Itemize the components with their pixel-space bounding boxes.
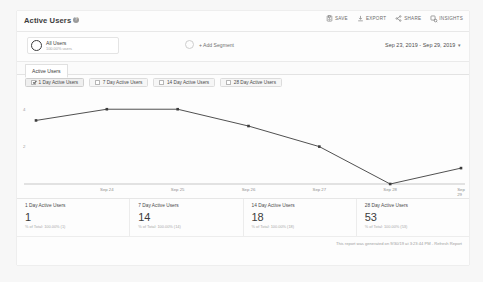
save-label: SAVE [335, 16, 348, 21]
generated-timestamp: This report was generated on 9/30/19 at … [336, 241, 462, 246]
card-title: 28 Day Active Users [365, 203, 469, 208]
card-value: 14 [138, 211, 242, 223]
refresh-report-link[interactable]: Refresh Report [434, 241, 462, 246]
tab-strip: Active Users [17, 62, 469, 75]
summary-card-7-day[interactable]: 7 Day Active Users 14 % of Total: 100.00… [130, 199, 243, 236]
download-icon [357, 15, 364, 22]
card-title: 7 Day Active Users [138, 203, 242, 208]
chevron-down-icon: ▾ [458, 42, 461, 48]
date-range-label: Sep 23, 2019 - Sep 29, 2019 [385, 42, 455, 48]
metric-chip-row: 1 Day Active Users 7 Day Active Users 14… [17, 75, 469, 90]
insights-icon [430, 15, 437, 22]
chart-canvas [19, 90, 467, 198]
report-panel: Active Users ? SAVE [17, 11, 469, 265]
date-range-picker[interactable]: Sep 23, 2019 - Sep 29, 2019 ▾ [385, 42, 461, 48]
chip-7-day-active-users[interactable]: 7 Day Active Users [89, 78, 148, 88]
summary-card-row: 1 Day Active Users 1 % of Total: 100.00%… [17, 198, 469, 236]
card-value: 1 [25, 211, 129, 223]
card-subtext: % of Total: 100.00% (1) [25, 224, 129, 229]
card-title: 14 Day Active Users [252, 203, 356, 208]
checkbox-icon[interactable] [31, 80, 36, 85]
share-button[interactable]: SHARE [395, 15, 421, 22]
checkbox-icon[interactable] [95, 80, 100, 85]
chip-1-day-active-users[interactable]: 1 Day Active Users [25, 78, 84, 88]
summary-card-14-day[interactable]: 14 Day Active Users 18 % of Total: 100.0… [244, 199, 357, 236]
checkbox-icon[interactable] [159, 80, 164, 85]
question-mark-icon[interactable]: ? [73, 17, 79, 23]
screenshot-root: Active Users ? SAVE [0, 0, 483, 282]
report-footer: This report was generated on 9/30/19 at … [17, 236, 469, 250]
page-title: Active Users [24, 16, 71, 25]
chip-label: 7 Day Active Users [103, 80, 143, 85]
segment-detail: 100.00% users [46, 46, 72, 51]
card-value: 18 [252, 211, 356, 223]
chip-28-day-active-users[interactable]: 28 Day Active Users [220, 78, 282, 88]
summary-card-28-day[interactable]: 28 Day Active Users 53 % of Total: 100.0… [357, 199, 469, 236]
segment-bar: All Users 100.00% users + Add Segment Se… [17, 32, 469, 62]
card-subtext: % of Total: 100.00% (14) [138, 224, 242, 229]
report-toolbar: SAVE EXPORT [326, 15, 463, 22]
checkbox-icon[interactable] [226, 80, 231, 85]
card-title: 1 Day Active Users [25, 203, 129, 208]
chip-14-day-active-users[interactable]: 14 Day Active Users [153, 78, 215, 88]
segment-all-users[interactable]: All Users 100.00% users [27, 37, 119, 54]
export-label: EXPORT [366, 16, 386, 21]
export-button[interactable]: EXPORT [357, 15, 386, 22]
summary-card-1-day[interactable]: 1 Day Active Users 1 % of Total: 100.00%… [17, 199, 130, 236]
segment-circle-icon [31, 40, 42, 51]
x-axis-tick: Sep 26 [242, 187, 256, 192]
chip-label: 28 Day Active Users [234, 80, 276, 85]
chip-label: 14 Day Active Users [167, 80, 209, 85]
y-axis-tick: 4 [23, 107, 25, 112]
y-axis-tick: 2 [23, 144, 25, 149]
insights-button[interactable]: INSIGHTS [430, 15, 463, 22]
plus-circle-icon [185, 40, 194, 49]
share-label: SHARE [404, 16, 421, 21]
save-button[interactable]: SAVE [326, 15, 348, 22]
active-users-line-chart[interactable]: 24 Sep 24Sep 25Sep 26Sep 27Sep 28Sep 29 [19, 90, 467, 198]
x-axis-tick: Sep 29 [457, 187, 465, 197]
x-axis-tick: Sep 27 [313, 187, 327, 192]
report-header: Active Users ? SAVE [17, 11, 469, 32]
card-value: 53 [365, 211, 469, 223]
card-subtext: % of Total: 100.00% (53) [365, 224, 469, 229]
insights-label: INSIGHTS [439, 16, 463, 21]
x-axis-tick: Sep 25 [171, 187, 185, 192]
add-segment-label: + Add Segment [199, 42, 234, 48]
save-icon [326, 15, 333, 22]
share-icon [395, 15, 402, 22]
card-subtext: % of Total: 100.00% (18) [252, 224, 356, 229]
add-segment-button[interactable]: + Add Segment [185, 40, 234, 49]
x-axis-tick: Sep 24 [100, 187, 114, 192]
generated-text: This report was generated on 9/30/19 at … [336, 241, 434, 246]
x-axis-tick: Sep 28 [383, 187, 397, 192]
chip-label: 1 Day Active Users [39, 80, 79, 85]
